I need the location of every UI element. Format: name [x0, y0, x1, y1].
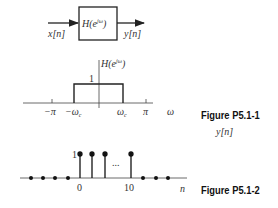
omega-axis-label: ω: [167, 106, 174, 117]
tick-label-10: 10: [124, 182, 134, 193]
sequence-ylabel: y[n]: [215, 126, 233, 137]
magnitude-label: H(ejω): [100, 58, 126, 70]
system-label: H(ejω): [81, 18, 107, 30]
figure-caption-p5-1-1: Figure P5.1-1: [201, 109, 260, 121]
n-axis-label: n: [180, 183, 185, 194]
unit-stems: [78, 152, 133, 178]
figure-canvas: H(ejω) x[n] y[n] H(ejω) 1 −π −ωc ωc π ω …: [0, 0, 278, 208]
frequency-response-plot: H(ejω) 1 −π −ωc ωc π ω: [23, 58, 174, 118]
input-label: x[n]: [47, 28, 65, 39]
output-label: y[n]: [123, 28, 141, 39]
tick-label-neg-wc: −ωc: [65, 106, 82, 118]
tick-label-wc: ωc: [117, 106, 127, 118]
height-label: 1: [89, 73, 94, 84]
block-diagram: H(ejω) x[n] y[n]: [47, 7, 144, 40]
tick-label-pi: π: [143, 106, 149, 117]
lowpass-rect: [74, 84, 123, 103]
tick-label-0: 0: [77, 182, 82, 193]
ellipsis: ...: [112, 157, 120, 168]
stem-height-label: 1: [72, 149, 77, 160]
figure-caption-p5-1-2: Figure P5.1-2: [201, 184, 260, 196]
tick-label-neg-pi: −π: [44, 106, 57, 117]
